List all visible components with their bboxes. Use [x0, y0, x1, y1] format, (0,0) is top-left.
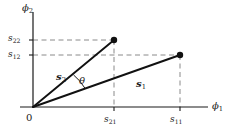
angle-label-theta: θ: [79, 76, 85, 86]
tick-s12-subscript: 12: [13, 53, 21, 60]
x-axis-label-symbol: ϕ: [212, 100, 219, 111]
endpoint-s2-dot: [111, 37, 117, 43]
x-tick-label-s21: s21: [104, 115, 116, 125]
x-tick-label-s11: s11: [170, 115, 182, 125]
y-tick-label-s22: s22: [8, 34, 20, 44]
tick-s22-subscript: 22: [13, 37, 21, 44]
vector-s1-subscript: 1: [142, 83, 146, 91]
vector-diagram-figure: ϕ2 ϕ1 s22 s12 s21 s11 s2 s1 θ 0: [0, 0, 231, 135]
endpoint-s1-dot: [177, 52, 183, 58]
tick-s11-subscript: 11: [175, 118, 183, 125]
y-axis-label-subscript: 2: [29, 7, 33, 15]
vector-s2-subscript: 2: [62, 76, 66, 84]
y-axis-label: ϕ2: [22, 3, 33, 15]
tick-s21-subscript: 21: [109, 118, 117, 125]
x-axis-label: ϕ1: [212, 101, 223, 113]
vector-s2-line: [33, 40, 114, 107]
x-axis-label-subscript: 1: [219, 105, 223, 113]
vector-label-s2: s2: [56, 72, 66, 84]
y-axis-label-symbol: ϕ: [22, 2, 29, 13]
origin-label: 0: [26, 113, 32, 123]
vector-label-s1: s1: [136, 79, 146, 91]
y-tick-label-s12: s12: [8, 50, 20, 60]
